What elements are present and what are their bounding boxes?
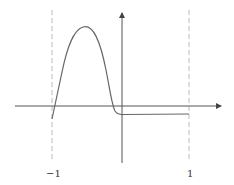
function-curve	[52, 27, 189, 119]
x-tick-label-one: 1	[187, 168, 193, 179]
x-tick-label-minus-one: −1	[46, 168, 61, 179]
function-plot	[0, 0, 234, 185]
